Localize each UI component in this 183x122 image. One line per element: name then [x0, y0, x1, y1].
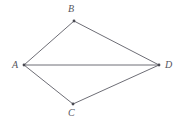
vertex-label-c: C — [68, 108, 75, 118]
vertex-point-c — [72, 103, 75, 106]
figure-canvas — [0, 0, 183, 122]
edge-d-c — [73, 65, 159, 104]
edge-a-b — [24, 21, 74, 65]
vertex-label-d: D — [165, 60, 172, 70]
vertex-point-d — [158, 64, 161, 67]
geometry-diagram: A B C D — [0, 0, 183, 122]
edge-b-d — [74, 21, 159, 65]
vertex-point-a — [23, 64, 26, 67]
edge-c-a — [24, 65, 73, 104]
vertex-label-a: A — [12, 60, 18, 70]
vertex-label-b: B — [68, 4, 74, 14]
vertex-point-b — [73, 20, 76, 23]
